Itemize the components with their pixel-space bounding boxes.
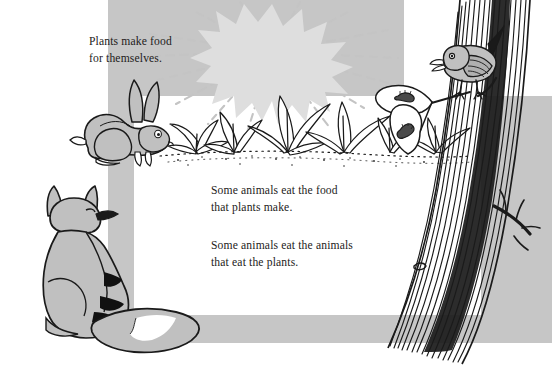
caption-animals-eat-plants: Some animals eat the food that plants ma… xyxy=(211,183,338,217)
illustration-page: Plants make food for themselves. Some an… xyxy=(0,0,552,385)
caption-plants-make-food: Plants make food for themselves. xyxy=(89,34,172,68)
caption-animals-eat-animals: Some animals eat the animals that eat th… xyxy=(211,238,353,272)
